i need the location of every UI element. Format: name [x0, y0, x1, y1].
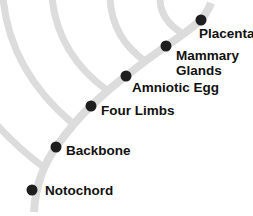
label-notochord: Notochord — [45, 183, 113, 198]
label-backbone: Backbone — [66, 143, 131, 158]
branch-1 — [0, 124, 42, 166]
node-notochord — [27, 185, 38, 196]
branch-5 — [160, 0, 182, 33]
node-backbone — [51, 142, 62, 153]
branch-3 — [52, 0, 108, 91]
branch-2 — [3, 0, 71, 122]
label-mammary-line1: Mammary — [176, 48, 239, 63]
branch-4 — [110, 0, 145, 61]
label-mammary-line2: Glands — [176, 63, 222, 78]
node-placenta — [196, 15, 207, 26]
node-four-limbs — [86, 101, 97, 112]
label-amniotic-egg: Amniotic Egg — [132, 80, 219, 95]
node-amniotic-egg — [121, 71, 132, 82]
label-placenta: Placenta — [199, 26, 253, 41]
cladogram: Placenta Mammary Glands Amniotic Egg Fou… — [0, 0, 253, 216]
node-mammary-glands — [161, 41, 172, 52]
label-four-limbs: Four Limbs — [101, 103, 175, 118]
